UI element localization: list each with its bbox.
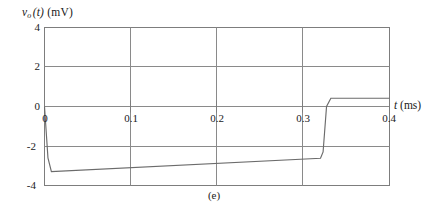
- plot-canvas: [0, 0, 428, 218]
- x-tick-label-0p2: 0.2: [200, 112, 234, 124]
- figure-caption: (e): [0, 189, 428, 201]
- x-tick-label-0p3: 0.3: [286, 112, 320, 124]
- x-tick-label-0: 0: [28, 112, 62, 124]
- y-tick-label-4: 4: [18, 21, 40, 33]
- y-tick-label-0: 0: [18, 100, 40, 112]
- y-tick-label-2: 2: [18, 60, 40, 72]
- x-tick-label-0p4: 0.4: [372, 112, 406, 124]
- x-tick-label-0p1: 0.1: [114, 112, 148, 124]
- figure-container: vo (t) (mV) t (ms) 4: [0, 0, 428, 218]
- y-tick-label-minus2: -2: [14, 140, 36, 152]
